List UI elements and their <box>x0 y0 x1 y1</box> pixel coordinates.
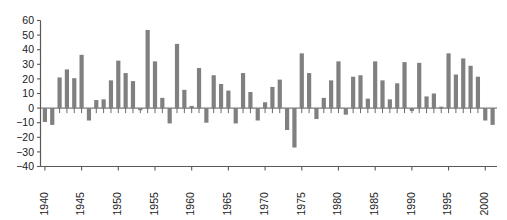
bar <box>278 80 282 108</box>
bar-chart: 6050403020100−10−20−30−40194019451950195… <box>0 0 507 220</box>
y-tick-label: −20 <box>16 131 34 143</box>
x-tick-label: 1955 <box>148 192 160 216</box>
bar <box>468 66 472 108</box>
y-tick-label: 20 <box>22 73 34 85</box>
y-tick-label: −40 <box>16 160 34 172</box>
bar <box>241 73 245 108</box>
bar <box>204 108 208 123</box>
bar <box>50 108 54 125</box>
y-tick-label: 40 <box>22 43 34 55</box>
bar <box>94 100 98 108</box>
bar <box>307 73 311 108</box>
x-tick-label: 1945 <box>74 192 86 216</box>
bar <box>263 102 267 108</box>
bar <box>219 84 223 108</box>
bar <box>65 69 69 108</box>
bar <box>182 90 186 108</box>
bar <box>256 108 260 120</box>
bar <box>87 108 91 120</box>
y-tick-label: 0 <box>28 102 34 114</box>
chart-canvas: 6050403020100−10−20−30−40194019451950195… <box>0 0 507 220</box>
bar <box>43 108 47 122</box>
y-tick-label: 10 <box>22 87 34 99</box>
y-tick-group: 6050403020100−10−20−30−40 <box>16 14 40 172</box>
bar <box>109 80 113 108</box>
bar <box>226 91 230 109</box>
x-tick-label: 1995 <box>441 192 453 216</box>
bar <box>388 99 392 108</box>
y-tick-label: 30 <box>22 58 34 70</box>
bar <box>314 108 318 119</box>
bar <box>285 108 289 130</box>
y-tick-label: 50 <box>22 29 34 41</box>
bar <box>160 98 164 108</box>
x-tick-label: 1960 <box>184 192 196 216</box>
bar <box>476 77 480 108</box>
x-tick-label: 1950 <box>111 192 123 216</box>
bar <box>322 98 326 108</box>
bar <box>491 108 495 125</box>
bar <box>417 63 421 108</box>
bar <box>336 61 340 108</box>
bar <box>153 61 157 108</box>
bar <box>72 78 76 108</box>
bar <box>197 68 201 108</box>
x-tick-label: 1980 <box>331 192 343 216</box>
bar <box>175 44 179 108</box>
bar <box>124 73 128 108</box>
bar <box>80 55 84 108</box>
bar <box>366 99 370 108</box>
x-tick-label: 1940 <box>38 192 50 216</box>
x-tick-label: 1985 <box>368 192 380 216</box>
bar <box>146 30 150 108</box>
bar <box>131 81 135 108</box>
bar <box>402 62 406 108</box>
x-tick-group: 1940194519501955196019651970197519801985… <box>38 167 490 216</box>
bar <box>344 108 348 115</box>
x-tick-label: 1965 <box>221 192 233 216</box>
bar <box>483 108 487 120</box>
bar <box>190 106 194 108</box>
x-minor-tick-group <box>45 108 493 113</box>
bar <box>432 94 436 109</box>
bar <box>116 61 120 108</box>
bar <box>351 77 355 108</box>
y-tick-label: 60 <box>22 14 34 26</box>
bar <box>102 99 106 108</box>
bar <box>461 58 465 108</box>
bar <box>358 75 362 108</box>
bars-group <box>43 30 495 148</box>
x-tick-label: 1970 <box>258 192 270 216</box>
x-tick-label: 1990 <box>405 192 417 216</box>
bar <box>329 80 333 108</box>
bar <box>380 80 384 108</box>
x-tick-label: 1975 <box>295 192 307 216</box>
bar <box>410 108 414 111</box>
bar <box>270 87 274 108</box>
y-tick-label: −10 <box>16 116 34 128</box>
bar <box>373 61 377 108</box>
bar <box>292 108 296 147</box>
bar <box>300 53 304 108</box>
bar <box>439 107 443 108</box>
bar <box>234 108 238 123</box>
bar <box>168 108 172 123</box>
bar <box>424 96 428 108</box>
bar <box>395 83 399 108</box>
y-tick-label: −30 <box>16 146 34 158</box>
bar <box>138 108 142 110</box>
x-tick-label: 2000 <box>478 192 490 216</box>
bar <box>57 77 61 108</box>
bar <box>212 75 216 108</box>
bar <box>454 75 458 109</box>
bar <box>446 53 450 108</box>
bar <box>248 92 252 108</box>
